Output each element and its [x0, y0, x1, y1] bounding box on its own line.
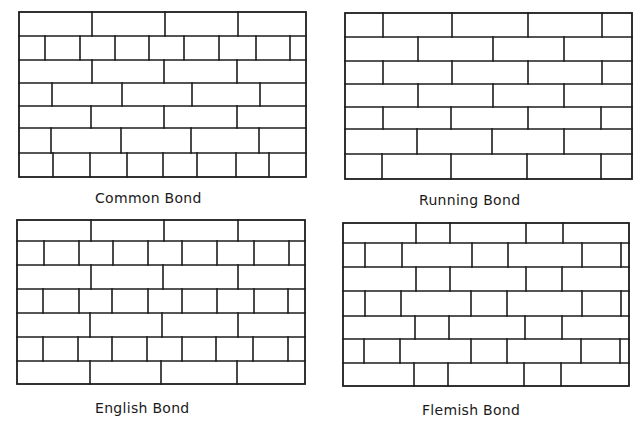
panel-english-bond	[17, 220, 305, 384]
panel-flemish-bond	[343, 223, 629, 386]
caption-english-bond: English Bond	[95, 400, 190, 416]
brick-bond-diagram	[0, 0, 640, 423]
panel-common-bond	[19, 12, 306, 177]
wall-frame	[343, 223, 629, 386]
caption-flemish-bond: Flemish Bond	[422, 402, 520, 418]
panel-running-bond	[345, 13, 632, 179]
wall-frame	[17, 220, 305, 384]
caption-running-bond: Running Bond	[419, 192, 520, 208]
caption-common-bond: Common Bond	[95, 190, 202, 206]
